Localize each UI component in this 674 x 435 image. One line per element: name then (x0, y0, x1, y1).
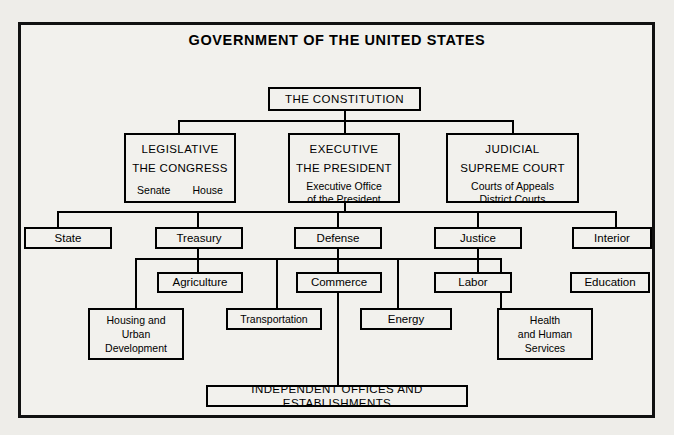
node-constitution[interactable]: THE CONSTITUTION (268, 87, 421, 111)
justice-label: Justice (436, 231, 520, 245)
judicial-line3: Courts of Appeals (471, 180, 554, 193)
connector-constitution-stem (344, 111, 346, 133)
organization-chart: GOVERNMENT OF THE UNITED STATES THE CONS… (0, 0, 674, 435)
node-health-human-services[interactable]: Health and Human Services (497, 308, 593, 360)
connector-secondary-bus (135, 258, 500, 260)
hud-line2: Urban (122, 328, 151, 340)
node-legislative[interactable]: LEGISLATIVE THE CONGRESS Senate House (124, 133, 236, 203)
connector-hud-drop (135, 258, 137, 308)
node-transportation[interactable]: Transportation (226, 308, 322, 330)
node-energy[interactable]: Energy (360, 308, 452, 330)
legislative-line2: THE CONGRESS (132, 161, 228, 175)
hhs-line2: and Human (518, 328, 572, 340)
treasury-label: Treasury (157, 231, 241, 245)
connector-agriculture-drop (197, 258, 199, 272)
node-commerce[interactable]: Commerce (296, 272, 382, 293)
page-title: GOVERNMENT OF THE UNITED STATES (0, 32, 674, 48)
legislative-line1: LEGISLATIVE (141, 142, 218, 156)
connector-defense-drop (337, 211, 339, 227)
connector-treasury-drop (197, 211, 199, 227)
transportation-label: Transportation (228, 313, 320, 326)
executive-line3: Executive Office (306, 180, 382, 193)
interior-label: Interior (574, 231, 650, 245)
node-housing-urban-development[interactable]: Housing and Urban Development (88, 308, 184, 360)
commerce-label: Commerce (298, 275, 380, 289)
legislative-house: House (193, 184, 223, 197)
node-interior[interactable]: Interior (572, 227, 652, 249)
hud-line1: Housing and (107, 314, 166, 326)
judicial-line1: JUDICIAL (485, 142, 539, 156)
constitution-label: THE CONSTITUTION (270, 92, 419, 106)
node-agriculture[interactable]: Agriculture (157, 272, 243, 293)
defense-label: Defense (296, 231, 380, 245)
hhs-line1: Health (530, 314, 560, 326)
education-label: Education (572, 275, 648, 289)
connector-justice-drop (477, 211, 479, 227)
node-independent-offices[interactable]: INDEPENDENT OFFICES AND ESTABLISHMENTS (206, 385, 468, 407)
footer-label: INDEPENDENT OFFICES AND ESTABLISHMENTS (208, 382, 466, 410)
state-label: State (26, 231, 110, 245)
executive-line1: EXECUTIVE (310, 142, 379, 156)
hud-line3: Development (105, 342, 167, 354)
node-defense[interactable]: Defense (294, 227, 382, 249)
node-executive[interactable]: EXECUTIVE THE PRESIDENT Executive Office… (288, 133, 400, 203)
node-labor[interactable]: Labor (434, 272, 512, 293)
executive-line4: of the President (307, 193, 381, 206)
legislative-senate: Senate (137, 184, 170, 197)
connector-commerce-drop (337, 258, 339, 272)
connector-footer-stem (337, 293, 339, 385)
judicial-line4: District Courts (480, 193, 546, 206)
connector-interior-drop (615, 211, 617, 227)
hhs-label: Health and Human Services (499, 313, 591, 356)
hhs-line3: Services (525, 342, 565, 354)
node-education[interactable]: Education (570, 272, 650, 293)
connector-transportation-drop (276, 258, 278, 308)
energy-label: Energy (362, 312, 450, 326)
node-justice[interactable]: Justice (434, 227, 522, 249)
node-treasury[interactable]: Treasury (155, 227, 243, 249)
node-judicial[interactable]: JUDICIAL SUPREME COURT Courts of Appeals… (446, 133, 579, 203)
judicial-line2: SUPREME COURT (460, 161, 565, 175)
connector-labor-drop (477, 258, 479, 272)
node-state[interactable]: State (24, 227, 112, 249)
legislative-chambers: Senate House (126, 184, 234, 197)
connector-judicial-drop (512, 120, 514, 133)
connector-state-drop (57, 211, 59, 227)
connector-legislative-drop (178, 120, 180, 133)
labor-label: Labor (436, 275, 510, 289)
executive-line2: THE PRESIDENT (296, 161, 392, 175)
connector-branch-bus (178, 120, 514, 122)
agriculture-label: Agriculture (159, 275, 241, 289)
hud-label: Housing and Urban Development (90, 313, 182, 356)
connector-energy-drop (397, 258, 399, 308)
